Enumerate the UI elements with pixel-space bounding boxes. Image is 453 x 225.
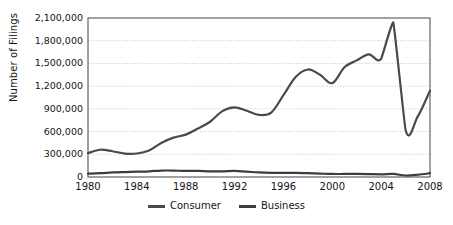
y-axis-tick-label: 900,000 [23, 104, 83, 114]
x-axis-tick-label: 2000 [312, 182, 352, 192]
y-axis-tick-label: 0 [23, 172, 83, 182]
y-axis-tick-label: 1,500,000 [23, 58, 83, 68]
y-axis-tick-label: 2,100,000 [23, 13, 83, 23]
y-axis-tick-label: 1,800,000 [23, 36, 83, 46]
y-axis-tick-label: 1,200,000 [23, 81, 83, 91]
x-axis-tick-label: 1984 [117, 182, 157, 192]
x-axis-tick-label: 1992 [215, 182, 255, 192]
y-axis-tick-label: 300,000 [23, 149, 83, 159]
x-axis-tick-label: 2004 [361, 182, 401, 192]
y-axis-tick-labels: 0300,000600,000900,0001,200,0001,500,000… [23, 0, 83, 200]
legend-item-consumer[interactable]: Consumer [148, 201, 221, 211]
x-axis-tick-label: 1996 [263, 182, 303, 192]
y-axis-title: Number of Filings [8, 0, 19, 123]
y-axis-tick-label: 600,000 [23, 127, 83, 137]
legend-label: Business [261, 201, 305, 211]
bankruptcy-filings-line-chart: Number of Filings 0300,000600,000900,000… [0, 0, 453, 225]
legend-item-business[interactable]: Business [239, 201, 305, 211]
legend-line-swatch-icon [239, 205, 256, 208]
x-axis-tick-label: 1980 [68, 182, 108, 192]
chart-legend: ConsumerBusiness [0, 201, 453, 211]
legend-line-swatch-icon [148, 205, 165, 208]
x-axis-tick-label: 1988 [166, 182, 206, 192]
legend-label: Consumer [170, 201, 221, 211]
x-axis-tick-label: 2008 [410, 182, 450, 192]
